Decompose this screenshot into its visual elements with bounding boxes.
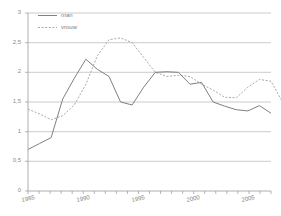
y-tick-label-2-5: 2,5 <box>5 39 21 46</box>
legend-label-vrouw: vrouw <box>61 24 77 31</box>
series-line-man <box>28 59 271 149</box>
y-tick-label-1-5: 1,5 <box>5 98 21 105</box>
series-line-vrouw <box>28 38 281 120</box>
y-tick-label-3: 3 <box>5 9 21 16</box>
legend <box>38 16 57 28</box>
y-tick-label-2: 2 <box>5 68 21 75</box>
line-chart: 3 2,5 2 1,5 1 0,5 0 1985 1990 1995 2000 … <box>0 0 281 216</box>
gridlines <box>28 13 271 161</box>
legend-label-man: man <box>61 12 73 19</box>
x-tick-marks <box>28 191 271 194</box>
y-tick-label-0: 0 <box>5 187 21 194</box>
y-tick-marks <box>25 13 28 191</box>
y-tick-label-0-5: 0,5 <box>5 157 21 164</box>
chart-plot-area <box>0 0 281 216</box>
y-tick-label-1: 1 <box>5 128 21 135</box>
